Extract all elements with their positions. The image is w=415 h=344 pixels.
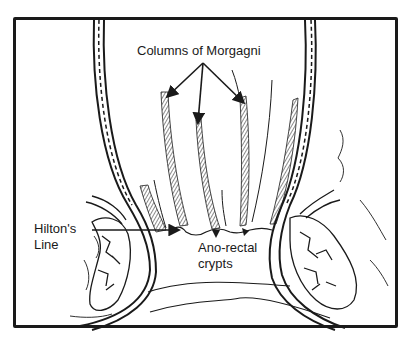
left-sphincter xyxy=(86,196,130,310)
label-crypts-line-2: crypts xyxy=(198,256,257,272)
label-ano-rectal-crypts: Ano-rectal crypts xyxy=(198,240,257,272)
label-crypts-line-1: Ano-rectal xyxy=(198,240,257,256)
columns-of-morgagni xyxy=(140,92,298,232)
columns-label-arrows xyxy=(168,63,243,122)
label-hiltons-line: Hilton's Line xyxy=(34,221,76,253)
anal-verge xyxy=(148,282,330,318)
dentate-line xyxy=(170,227,272,235)
label-hiltons-line-2: Line xyxy=(34,237,76,253)
right-sphincter xyxy=(290,190,357,309)
label-hiltons-line-1: Hilton's xyxy=(34,221,76,237)
right-rectal-wall xyxy=(270,20,345,330)
label-columns-of-morgagni: Columns of Morgagni xyxy=(137,43,261,59)
